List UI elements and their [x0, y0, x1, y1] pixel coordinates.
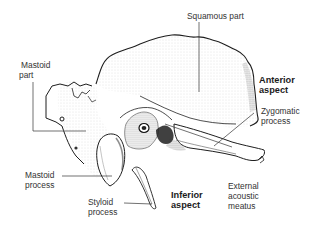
leader-styloid-process — [124, 203, 152, 204]
label-anterior-aspect-line2: aspect — [259, 85, 288, 95]
label-styloid-process-line2: process — [88, 208, 117, 218]
mastoid-process-shape — [97, 134, 125, 186]
label-external-acoustic-meatus-line3: meatus — [228, 202, 255, 212]
styloid-process-shape — [132, 167, 156, 209]
squamous-part-shape — [96, 35, 258, 128]
label-inferior-aspect-line1: Inferior — [171, 190, 203, 200]
label-anterior-aspect-line1: Anterior — [259, 75, 295, 85]
zygomatic-process-shape — [174, 124, 265, 163]
label-inferior-aspect-line2: aspect — [171, 200, 200, 210]
label-mastoid-part-line2: part — [19, 71, 33, 81]
label-zygomatic-process-line2: process — [261, 117, 290, 127]
label-mastoid-process-line2: process — [25, 181, 54, 191]
label-squamous-part: Squamous part — [187, 12, 244, 22]
